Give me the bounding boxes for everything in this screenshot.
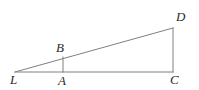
segments-group <box>15 28 173 72</box>
geometry-figure: D B L A C <box>0 0 199 90</box>
vertex-label-c: C <box>170 73 179 86</box>
vertex-label-a: A <box>58 74 66 87</box>
vertex-label-b: B <box>56 41 64 54</box>
segment-hypotenuse-ld <box>15 28 173 72</box>
vertex-label-d: D <box>176 10 185 23</box>
vertex-label-l: L <box>10 73 17 86</box>
